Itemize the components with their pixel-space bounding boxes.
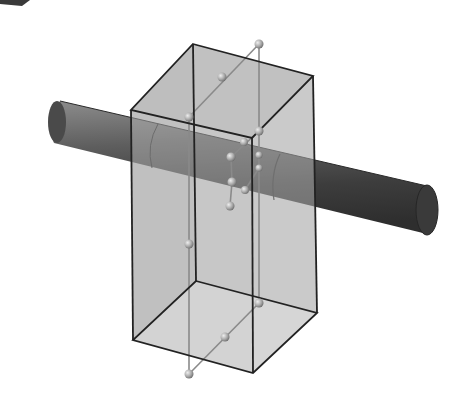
sphere-icon xyxy=(256,152,263,159)
3d-model-diagram xyxy=(0,0,467,403)
sphere-icon xyxy=(227,153,236,162)
sphere-icon xyxy=(255,40,264,49)
box-front xyxy=(131,44,317,373)
sphere-icon xyxy=(241,186,249,194)
sphere-icon xyxy=(221,333,230,342)
sphere-icon xyxy=(255,299,264,308)
corner-fragment xyxy=(0,0,30,6)
sphere-icon xyxy=(185,113,194,122)
sphere-icon xyxy=(226,202,235,211)
sphere-icon xyxy=(185,240,194,249)
sphere-icon xyxy=(240,138,248,146)
sphere-icon xyxy=(256,165,263,172)
sphere-icon xyxy=(228,178,237,187)
sphere-icon xyxy=(218,73,227,82)
sphere-icon xyxy=(185,370,194,379)
sphere-icon xyxy=(255,127,264,136)
